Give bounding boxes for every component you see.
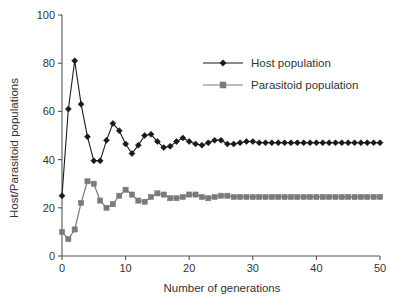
data-point xyxy=(371,194,376,199)
x-axis-title: Number of generations xyxy=(164,282,281,294)
data-point xyxy=(352,140,358,146)
data-point xyxy=(327,194,332,199)
data-point xyxy=(320,194,325,199)
data-point xyxy=(193,192,198,197)
data-point xyxy=(237,140,243,146)
x-tick-label: 30 xyxy=(247,262,259,274)
data-point xyxy=(231,141,237,147)
data-point xyxy=(161,192,166,197)
data-point xyxy=(104,205,109,210)
line-chart: 02040608010001020304050 Host populationP… xyxy=(0,0,409,303)
x-tick-label: 0 xyxy=(59,262,65,274)
data-point xyxy=(212,194,217,199)
legend-entry: Parasitoid population xyxy=(203,79,358,91)
legend-entry: Host population xyxy=(203,57,331,69)
data-point xyxy=(332,140,338,146)
data-point xyxy=(142,199,147,204)
data-point xyxy=(187,192,192,197)
data-point xyxy=(346,194,351,199)
data-point xyxy=(263,194,268,199)
figure-container: 02040608010001020304050 Host populationP… xyxy=(0,0,409,303)
legend-marker xyxy=(220,60,226,66)
data-point xyxy=(110,202,115,207)
data-point xyxy=(275,140,281,146)
data-point xyxy=(91,158,97,164)
data-point xyxy=(129,192,134,197)
data-point xyxy=(123,187,128,192)
data-point xyxy=(263,140,269,146)
data-point xyxy=(186,139,192,145)
data-point xyxy=(333,194,338,199)
data-point xyxy=(250,194,255,199)
data-point xyxy=(320,140,326,146)
data-point xyxy=(84,134,90,140)
data-point xyxy=(345,140,351,146)
data-point xyxy=(307,194,312,199)
x-tick-label: 10 xyxy=(119,262,131,274)
data-point xyxy=(206,196,211,201)
data-point xyxy=(85,179,90,184)
y-tick-label: 0 xyxy=(49,250,55,262)
data-point xyxy=(365,194,370,199)
data-point xyxy=(180,194,185,199)
data-point xyxy=(174,196,179,201)
data-point xyxy=(326,140,332,146)
data-point xyxy=(78,101,84,107)
data-point xyxy=(301,140,307,146)
data-point xyxy=(180,135,186,141)
data-point xyxy=(123,141,129,147)
data-point xyxy=(104,137,110,143)
data-point xyxy=(72,227,77,232)
legend-label: Parasitoid population xyxy=(251,79,358,91)
data-point xyxy=(168,196,173,201)
data-point xyxy=(307,140,313,146)
data-point xyxy=(364,140,370,146)
data-point xyxy=(358,194,363,199)
data-point xyxy=(295,194,300,199)
data-point xyxy=(313,140,319,146)
data-point xyxy=(314,194,319,199)
y-tick-label: 40 xyxy=(43,154,55,166)
data-point xyxy=(224,141,230,147)
data-point xyxy=(301,194,306,199)
data-point xyxy=(282,194,287,199)
data-point xyxy=(98,198,103,203)
data-point xyxy=(155,191,160,196)
data-point xyxy=(65,106,71,112)
legend-marker xyxy=(220,82,226,88)
data-point xyxy=(148,194,153,199)
data-point xyxy=(243,139,249,145)
data-point xyxy=(237,194,242,199)
data-point xyxy=(205,140,211,146)
data-point xyxy=(276,194,281,199)
data-point xyxy=(59,229,64,234)
data-point xyxy=(97,158,103,164)
data-point xyxy=(339,194,344,199)
data-point xyxy=(136,198,141,203)
data-point xyxy=(218,193,223,198)
data-point xyxy=(91,181,96,186)
data-point xyxy=(377,140,383,146)
chart-legend: Host populationParasitoid population xyxy=(203,57,358,91)
data-point xyxy=(339,140,345,146)
data-point xyxy=(218,137,224,143)
data-point xyxy=(66,237,71,242)
data-point xyxy=(377,194,382,199)
data-point xyxy=(269,194,274,199)
series-parasitoid xyxy=(59,179,382,242)
data-point xyxy=(117,193,122,198)
x-tick-label: 40 xyxy=(310,262,322,274)
data-point xyxy=(231,194,236,199)
y-tick-label: 20 xyxy=(43,202,55,214)
data-point xyxy=(193,141,199,147)
data-point xyxy=(244,194,249,199)
y-tick-label: 60 xyxy=(43,105,55,117)
data-point xyxy=(59,193,65,199)
data-point xyxy=(256,140,262,146)
data-point xyxy=(225,193,230,198)
data-point xyxy=(371,140,377,146)
y-tick-label: 100 xyxy=(37,9,55,21)
data-point xyxy=(257,194,262,199)
legend-label: Host population xyxy=(251,57,331,69)
data-point xyxy=(282,140,288,146)
